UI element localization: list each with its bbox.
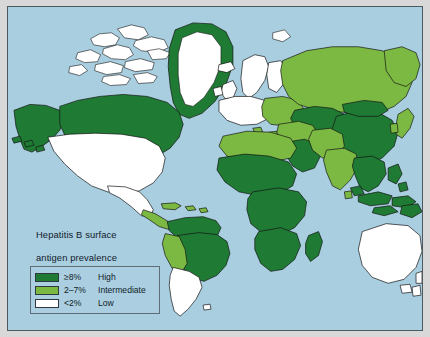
- legend-swatch-high: [35, 273, 59, 282]
- legend-title: Hepatitis B surface antigen prevalence: [30, 217, 160, 266]
- legend-label-low: Low: [98, 298, 114, 308]
- region-mongolia: [342, 100, 388, 116]
- figure-container: .hi { fill:#1f7a33; stroke:#141414; stro…: [0, 0, 430, 337]
- legend-label-high: High: [98, 272, 116, 282]
- legend-percent-low: <2%: [59, 298, 98, 308]
- region-korea: [390, 123, 398, 133]
- region-falkland-islands: [203, 304, 211, 310]
- legend-item-low: <2% Low: [35, 297, 155, 309]
- legend-box: ≥8% High 2–7% Intermediate <2% Low: [30, 266, 160, 314]
- legend-item-high: ≥8% High: [35, 271, 155, 283]
- region-tasmania: [400, 284, 412, 293]
- map-legend: Hepatitis B surface antigen prevalence ≥…: [30, 217, 160, 314]
- world-map-frame: .hi { fill:#1f7a33; stroke:#141414; stro…: [7, 6, 423, 331]
- legend-title-line2: antigen prevalence: [36, 252, 117, 263]
- legend-swatch-low: [35, 299, 59, 308]
- region-sri-lanka: [344, 191, 352, 199]
- legend-swatch-intermediate: [35, 286, 59, 295]
- legend-label-intermediate: Intermediate: [98, 285, 146, 295]
- legend-title-line1: Hepatitis B surface: [36, 229, 117, 240]
- legend-percent-intermediate: 2–7%: [59, 285, 98, 295]
- legend-item-intermediate: 2–7% Intermediate: [35, 284, 155, 296]
- legend-percent-high: ≥8%: [59, 272, 98, 282]
